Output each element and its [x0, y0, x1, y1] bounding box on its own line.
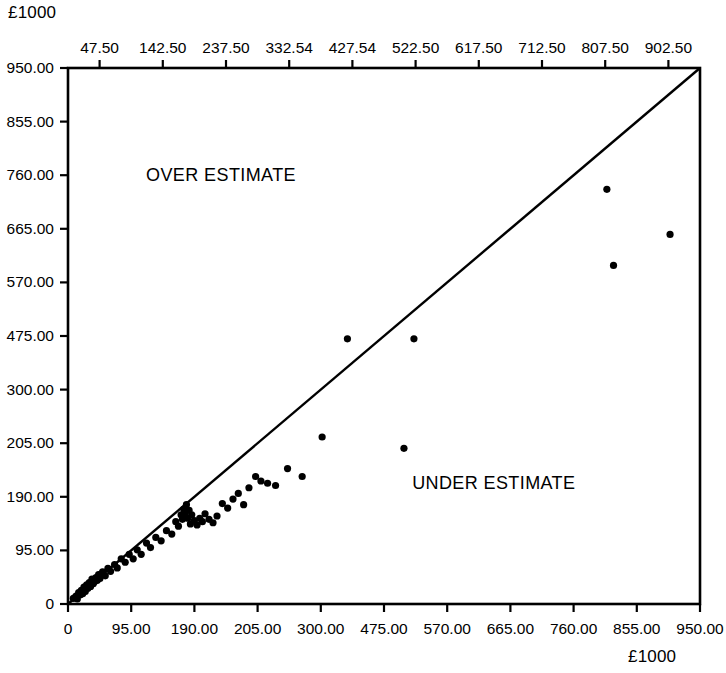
data-point: [666, 231, 673, 238]
data-point: [168, 530, 175, 537]
plot-area: [0, 0, 726, 673]
data-point: [213, 512, 220, 519]
data-point: [240, 501, 247, 508]
data-point: [158, 537, 165, 544]
data-point: [319, 433, 326, 440]
data-point: [245, 484, 252, 491]
data-point: [122, 559, 129, 566]
data-point: [138, 551, 145, 558]
data-point: [229, 495, 236, 502]
data-point: [209, 519, 216, 526]
data-point: [130, 555, 137, 562]
data-point: [175, 523, 182, 530]
data-point: [284, 465, 291, 472]
data-point-layer: [70, 186, 674, 603]
data-point: [224, 504, 231, 511]
data-point: [114, 564, 121, 571]
data-point: [235, 490, 242, 497]
data-point: [257, 477, 264, 484]
data-point: [400, 445, 407, 452]
data-point: [147, 544, 154, 551]
data-point: [603, 186, 610, 193]
data-point: [299, 473, 306, 480]
data-point: [344, 335, 351, 342]
data-point: [264, 480, 271, 487]
data-point: [199, 518, 206, 525]
data-point: [410, 335, 417, 342]
data-point: [610, 262, 617, 269]
data-point: [272, 482, 279, 489]
scatter-chart: £1000 £1000 095.00190.00205.00300.00475.…: [0, 0, 726, 673]
data-point: [107, 568, 114, 575]
parity-reference-line: [68, 68, 700, 604]
